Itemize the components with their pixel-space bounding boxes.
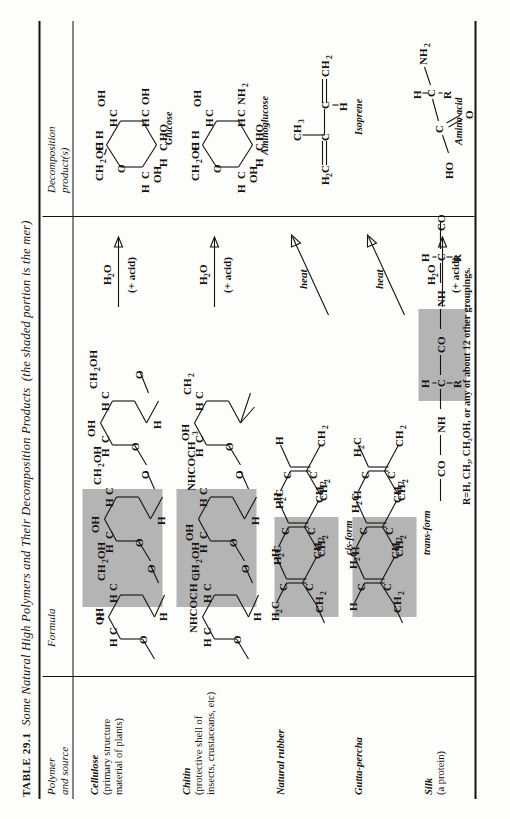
svg-text:H: H [203,118,215,127]
svg-text:CH: CH [319,60,331,77]
svg-text:3: 3 [191,431,200,435]
svg-text:CH: CH [291,124,303,141]
svg-text:CH: CH [181,378,193,395]
svg-text:C: C [99,391,111,399]
svg-text:C: C [319,133,331,141]
svg-text:2: 2 [397,591,406,595]
svg-text:O: O [211,164,223,173]
svg-text:C: C [107,583,119,591]
svg-text:C: C [355,583,367,591]
svg-text:OH: OH [247,165,259,183]
svg-text:CH: CH [87,372,99,389]
rule-header [73,21,74,799]
svg-text:H: H [107,594,119,603]
svg-text:C: C [139,171,151,179]
caption-amino-acid: Amino acid [453,97,464,145]
column-header-decomposition: Decomposition product(s) [45,126,70,193]
svg-text:CH: CH [391,596,403,613]
arrow-rubber: heat [285,219,335,319]
caption-trans-form: trans-form [421,510,432,554]
svg-text:2: 2 [101,559,110,563]
row-label-natural-rubber: Natural rubber [275,729,287,795]
svg-text:NH: NH [235,88,247,105]
svg-text:H: H [93,130,105,139]
svg-text:CH: CH [189,164,201,181]
table-29-1: TABLE 29.1 Some Natural High Polymers an… [13,15,498,805]
row-label-cellulose: Cellulose (primary structure material of… [89,718,125,795]
svg-text:(+ acid): (+ acid) [125,256,138,292]
svg-text:C: C [201,583,213,591]
row-label-chitin: Chitin (protective shell of insects, cru… [181,691,217,794]
svg-text:C: C [385,471,397,479]
svg-text:CO: CO [435,460,447,477]
svg-text:2: 2 [203,273,212,277]
svg-text:H: H [411,90,423,99]
product-isoprene: H2C C CH3 C H CH2 [287,25,357,185]
svg-text:C: C [305,527,317,535]
svg-text:H: H [249,516,261,525]
svg-text:O: O [133,538,145,547]
svg-text:2: 2 [355,501,364,505]
product-aminoglucose: O CH2OH C H C OH H C NH2 H C H HO C H OH [177,31,263,201]
svg-text:H: H [157,612,169,621]
svg-text:H: H [197,498,209,507]
svg-text:C: C [107,627,119,635]
svg-text:H: H [193,448,205,457]
product-glucose: O CH2OH C H C OH H C OH H C H HO C H OH [81,31,167,201]
svg-text:C: C [103,531,115,539]
page-frame: TABLE 29.1 Some Natural High Polymers an… [0,0,510,819]
caption-isoprene: Isoprene [353,98,364,134]
svg-text:O: O [227,538,239,547]
svg-text:CH: CH [95,564,107,581]
svg-text:H: H [201,594,213,603]
svg-text:O: O [463,110,475,119]
svg-text:C: C [235,109,247,117]
svg-text:2: 2 [187,373,196,377]
svg-text:C: C [197,531,209,539]
svg-text:O: O [129,442,141,451]
svg-text:C: C [235,171,247,179]
svg-text:O: O [223,442,235,451]
svg-text:H: H [103,544,115,553]
svg-text:C: C [107,109,119,117]
svg-text:C: C [93,143,105,151]
row-label-silk: Silk (a protein) [423,750,447,794]
svg-text:C: C [201,627,213,635]
svg-text:H: H [419,379,431,388]
svg-text:NH: NH [417,48,429,65]
svg-text:C: C [277,583,289,591]
svg-text:C: C [203,109,215,117]
svg-text:2: 2 [323,479,332,483]
svg-text:C: C [303,583,315,591]
svg-text:heat: heat [373,268,385,289]
svg-text:NH: NH [435,416,447,433]
svg-text:C: C [307,471,319,479]
svg-text:H: H [235,184,247,193]
svg-text:2: 2 [357,445,366,449]
svg-text:O: O [239,564,251,573]
svg-text:H: H [99,402,111,411]
svg-text:2: 2 [97,463,106,467]
svg-text:OH: OH [95,89,107,107]
svg-text:2: 2 [325,173,334,177]
arrow-silk: H2O (+ acid) [417,223,463,309]
svg-text:CH: CH [315,540,327,557]
svg-text:H: H [139,118,151,127]
svg-text:C: C [103,487,115,495]
svg-text:2: 2 [241,83,250,87]
svg-text:O: O [137,635,149,644]
svg-text:2: 2 [431,273,440,277]
svg-text:OH: OH [179,423,191,441]
svg-text:O: O [145,564,157,573]
svg-text:C: C [189,143,201,151]
svg-text:2: 2 [277,553,286,557]
table-caption: TABLE 29.1 Some Natural High Polymers an… [19,220,34,797]
svg-text:3: 3 [297,119,306,123]
svg-text:H: H [251,612,263,621]
svg-text:C: C [319,165,331,173]
svg-text:H: H [99,448,111,457]
rotated-page: TABLE 29.1 Some Natural High Polymers an… [13,15,498,805]
svg-text:H: H [103,498,115,507]
table-title-paren: (the shaded portion is the mer) [19,220,33,381]
svg-text:C: C [99,435,111,443]
